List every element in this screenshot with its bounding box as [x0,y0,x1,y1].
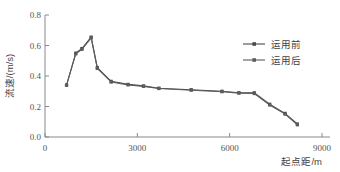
legend-item[interactable]: 运用后 [243,55,301,66]
x-tick-label: 6000 [221,143,240,153]
data-point-marker [268,103,271,106]
series-polyline [67,37,298,124]
x-axis-ticks: 0300060009000 [43,133,332,153]
y-tick-label: 0.2 [30,102,41,112]
legend-label: 运用后 [271,55,301,66]
data-point-marker [90,36,93,39]
data-point-marker [110,81,113,84]
y-tick-label: 0.6 [30,41,42,51]
y-axis-ticks: 0.00.20.40.60.8 [30,10,49,142]
data-point-marker [253,92,256,95]
data-point-marker [74,52,77,55]
x-tick-label: 9000 [313,143,332,153]
data-point-marker [142,85,145,88]
x-tick-label: 3000 [128,143,147,153]
data-series [65,36,299,126]
data-point-marker [190,89,193,92]
y-axis-title: 流速/(m/s) [4,54,15,98]
data-point-marker [65,84,68,87]
data-series-group [65,36,299,127]
y-tick-label: 0.4 [30,71,42,81]
legend-label: 运用前 [271,39,301,50]
chart-axes [45,15,330,137]
y-tick-label: 0.8 [30,10,42,20]
series-polyline [67,38,298,125]
data-series [65,36,299,126]
velocity-distance-chart: 0.00.20.40.60.8 0300060009000 流速/(m/s) 起… [0,0,340,172]
data-point-marker [237,91,240,94]
legend-marker [252,58,256,62]
data-point-marker [96,67,99,70]
data-point-marker [296,123,299,126]
y-tick-label: 0.0 [30,132,42,142]
x-axis-title: 起点距/m [281,156,322,167]
data-point-marker [283,113,286,116]
data-point-marker [80,48,83,51]
legend-marker [252,42,256,46]
data-point-marker [220,90,223,93]
data-point-marker [127,83,130,86]
data-point-marker [157,87,160,90]
chart-legend: 运用前运用后 [243,39,301,66]
x-tick-label: 0 [43,143,48,153]
legend-item[interactable]: 运用前 [243,39,301,50]
